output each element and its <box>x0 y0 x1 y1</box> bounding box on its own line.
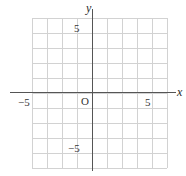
tick-label-y-positive-5: 5 <box>74 23 80 34</box>
coordinate-plane-figure: x y O 5 −5 −5 5 <box>0 0 186 176</box>
grid-line-horizontal <box>32 168 167 169</box>
grid-line-horizontal <box>32 153 167 154</box>
grid-line-horizontal <box>32 63 167 64</box>
grid-line-vertical <box>167 18 168 168</box>
grid-line-horizontal <box>32 18 167 19</box>
grid-line-horizontal <box>32 108 167 109</box>
y-axis-label: y <box>86 2 91 14</box>
y-axis-line <box>92 9 93 171</box>
grid-line-horizontal <box>32 93 167 94</box>
tick-label-y-negative-5: −5 <box>68 143 80 154</box>
grid-line-horizontal <box>32 123 167 124</box>
grid-line-horizontal <box>32 78 167 79</box>
x-axis-label: x <box>177 86 182 98</box>
grid <box>32 18 167 168</box>
grid-line-horizontal <box>32 138 167 139</box>
tick-label-x-negative-5: −5 <box>18 97 30 108</box>
origin-label: O <box>81 96 89 107</box>
grid-line-horizontal <box>32 48 167 49</box>
tick-label-x-positive-5: 5 <box>145 97 151 108</box>
grid-line-horizontal <box>32 33 167 34</box>
x-axis-line <box>10 92 176 93</box>
